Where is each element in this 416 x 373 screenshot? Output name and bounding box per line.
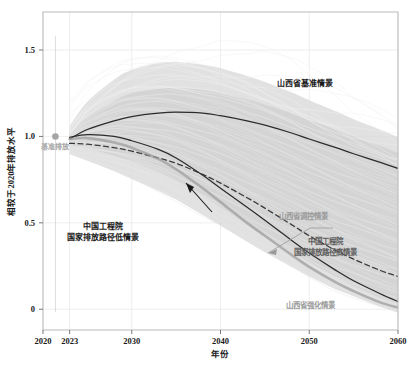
annotation-baseline-scenario-label: 山西省基准情景 bbox=[277, 78, 333, 88]
annotation-enhanced-scenario-label: 山西省强化情景 bbox=[286, 300, 336, 310]
x-tick-label: 2023 bbox=[61, 336, 78, 346]
annotation-control-scenario-label: 山西省调控情景 bbox=[279, 211, 329, 221]
annotation-cae-low-line1: 中国工程院 bbox=[83, 221, 123, 231]
y-tick-label: 1.0 bbox=[24, 131, 35, 141]
baseline-dot bbox=[52, 133, 59, 140]
annotation-enhanced-scenario: 山西省强化情景 bbox=[286, 300, 336, 310]
x-tick-label: 2030 bbox=[123, 336, 140, 346]
annotation-control-scenario: 山西省调控情景 bbox=[279, 211, 329, 221]
x-tick-label: 2060 bbox=[390, 336, 407, 346]
y-tick-label: 0 bbox=[31, 304, 35, 314]
chart-root: 基准排放 202020232030204020502060 00.51.01.5… bbox=[0, 0, 416, 373]
annotation-cae-high-line2: 国家排放路径高情景 bbox=[294, 247, 358, 257]
y-tick-label: 0.5 bbox=[24, 218, 35, 228]
annotation-cae-low-line2: 国家排放路径低情景 bbox=[67, 232, 139, 242]
x-tick-label: 2040 bbox=[212, 336, 229, 346]
annotation-cae-high-line1: 中国工程院 bbox=[308, 236, 344, 246]
y-tick-label: 1.5 bbox=[24, 45, 35, 55]
annotation-baseline-scenario: 山西省基准情景 bbox=[277, 78, 333, 88]
x-tick-label: 2050 bbox=[301, 336, 318, 346]
x-axis-title: 年份 bbox=[211, 349, 229, 359]
emissions-pathway-chart: 基准排放 202020232030204020502060 00.51.01.5… bbox=[0, 0, 416, 373]
y-axis-title: 相较于2020年排放水平 bbox=[6, 127, 16, 216]
x-tick-label: 2020 bbox=[35, 336, 52, 346]
baseline-label: 基准排放 bbox=[40, 142, 70, 151]
